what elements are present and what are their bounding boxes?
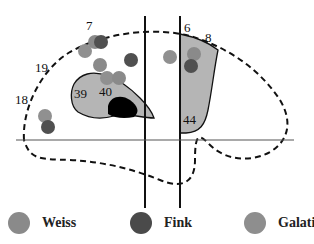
legend-label-galati: Galati xyxy=(278,215,314,231)
legend: Weiss Fink Galati xyxy=(0,208,314,244)
weiss-dot-icon xyxy=(8,212,30,234)
legend-item-weiss: Weiss xyxy=(8,212,76,234)
area-label-6: 6 xyxy=(184,20,191,35)
area-label-40: 40 xyxy=(99,84,112,99)
legend-label-weiss: Weiss xyxy=(42,215,76,231)
area-label-8: 8 xyxy=(205,30,212,45)
area-label-39: 39 xyxy=(74,86,87,101)
activation-points xyxy=(38,35,201,134)
area-label-19: 19 xyxy=(35,60,48,75)
activation-point xyxy=(78,44,92,58)
legend-item-galati: Galati xyxy=(244,212,314,234)
galati-dot-icon xyxy=(244,212,266,234)
activation-point xyxy=(184,59,198,73)
activation-point xyxy=(93,58,107,72)
activation-point xyxy=(187,47,201,61)
activation-point xyxy=(100,71,114,85)
legend-label-fink: Fink xyxy=(164,215,192,231)
legend-item-fink: Fink xyxy=(130,212,192,234)
brain-outline xyxy=(24,32,288,184)
activation-point xyxy=(94,35,108,49)
area-label-44: 44 xyxy=(183,112,197,127)
activation-point xyxy=(112,71,126,85)
area-label-18: 18 xyxy=(15,92,28,107)
activation-point xyxy=(124,53,138,67)
fink-dot-icon xyxy=(130,212,152,234)
area-label-7: 7 xyxy=(86,18,93,33)
activation-point xyxy=(163,50,177,64)
activation-point xyxy=(41,120,55,134)
